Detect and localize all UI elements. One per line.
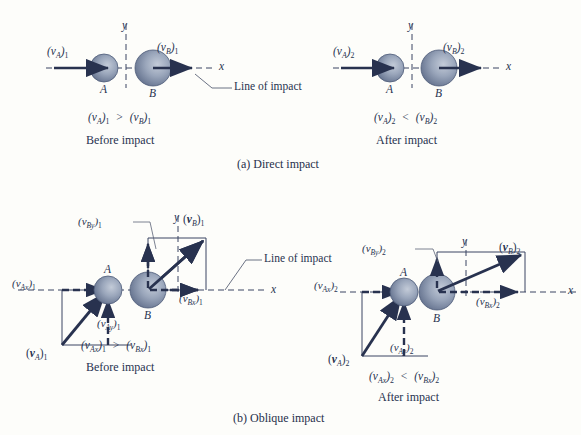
label-vax-before-oblique: (vAx)1	[12, 278, 36, 292]
state-label-before-direct: Before impact	[86, 134, 154, 146]
label-vbx-after-oblique: (vBx)2	[476, 296, 500, 310]
label-y-axis-before-oblique: y	[174, 212, 179, 224]
label-ball-a-after-direct: A	[386, 84, 393, 96]
label-line-of-impact-oblique: Line of impact	[264, 253, 332, 265]
figure-impact-diagrams: (vA)1 (vB)1 y x Line of impact A B (vA)1…	[0, 0, 581, 435]
label-ball-b-before-oblique: B	[144, 310, 151, 322]
direct-before-diagram	[46, 24, 232, 88]
label-x-axis-before-oblique: x	[271, 284, 276, 296]
label-ball-a-before-direct: A	[100, 84, 107, 96]
label-x-axis-after-oblique: x	[568, 285, 573, 297]
label-vax-after-oblique: (vAx)2	[314, 280, 338, 294]
label-y-axis-before-direct: y	[122, 20, 127, 32]
label-va-before-direct: (vA)1	[47, 46, 68, 60]
label-ball-b-after-direct: B	[435, 88, 442, 100]
state-label-after-direct: After impact	[376, 134, 437, 146]
label-ball-a-after-oblique: A	[400, 267, 407, 279]
relation-after-oblique: (vAx)2 < (vBx)2	[369, 371, 439, 385]
label-y-axis-after-oblique: y	[462, 236, 467, 248]
label-vay-after-oblique: (vAy)2	[390, 342, 413, 356]
label-vb-vector-after-oblique: (vB)2	[499, 242, 520, 256]
label-va-after-direct: (vA)2	[333, 46, 354, 60]
oblique-after-diagram	[340, 240, 578, 356]
relation-before-oblique: (vAx)1 > (vBx)1	[81, 340, 151, 354]
label-vby-after-oblique: (vBy)2	[362, 243, 386, 257]
label-line-of-impact-direct: Line of impact	[234, 81, 302, 93]
direct-after-diagram	[333, 24, 503, 88]
relation-after-direct: (vA)2 < (vB)2	[374, 112, 437, 126]
label-vb-vector-before-oblique: (vB)1	[183, 214, 204, 228]
label-va-vector-after-oblique: (vA)2	[328, 354, 349, 368]
label-va-vector-before-oblique: (vA)1	[26, 348, 47, 362]
relation-before-direct: (vA)1 > (vB)1	[88, 112, 151, 126]
caption-oblique-impact: (b) Oblique impact	[233, 411, 324, 426]
label-vb-before-direct: (vB)1	[157, 42, 178, 56]
label-y-axis-after-direct: y	[408, 20, 413, 32]
label-vb-after-direct: (vB)2	[443, 42, 464, 56]
label-vbx-before-oblique: (vBx)1	[179, 293, 203, 307]
label-ball-b-before-direct: B	[149, 88, 156, 100]
label-vay-before-oblique: (vAy)1	[97, 318, 120, 332]
label-ball-a-before-oblique: A	[104, 264, 111, 276]
state-label-before-oblique: Before impact	[86, 361, 154, 373]
caption-direct-impact: (a) Direct impact	[237, 157, 319, 172]
oblique-before-diagram	[18, 216, 268, 345]
label-ball-b-after-oblique: B	[433, 313, 440, 325]
label-x-axis-after-direct: x	[506, 61, 511, 73]
label-vby-before-oblique: (vBy)1	[78, 216, 102, 230]
state-label-after-oblique: After impact	[378, 391, 439, 403]
label-x-axis-before-direct: x	[219, 61, 224, 73]
